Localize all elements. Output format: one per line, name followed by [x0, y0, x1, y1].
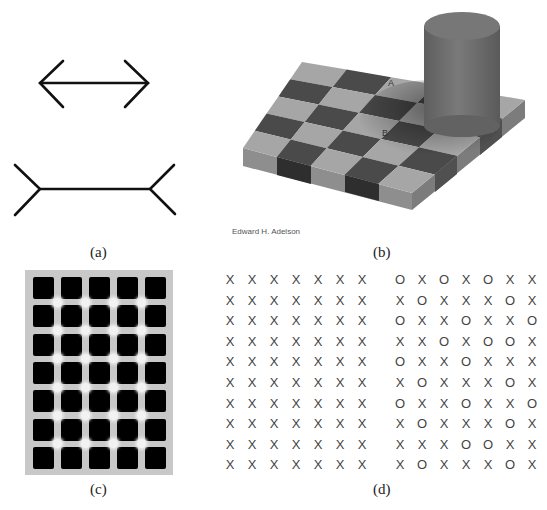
grid-square: [145, 277, 166, 299]
o-mark: O: [411, 455, 433, 476]
x-mark: X: [329, 435, 351, 456]
x-mark: X: [329, 332, 351, 353]
x-mark: X: [263, 270, 285, 291]
x-mark: X: [329, 414, 351, 435]
x-mark: X: [219, 373, 241, 394]
o-mark: O: [521, 311, 543, 332]
x-mark: X: [329, 373, 351, 394]
x-mark: X: [241, 311, 263, 332]
x-mark: X: [219, 270, 241, 291]
intersection-dot: [137, 298, 146, 307]
right-xo-grid: OXOXOXXXOXXXOXOXXOXXOXXOXOOXOXXOXXXXOXXX…: [389, 270, 543, 476]
x-mark: X: [219, 311, 241, 332]
grid-square: [89, 419, 110, 441]
x-mark: X: [241, 270, 263, 291]
x-mark: X: [263, 311, 285, 332]
grid-square: [145, 447, 166, 469]
x-mark: X: [499, 352, 521, 373]
x-mark: X: [521, 352, 543, 373]
x-mark: X: [307, 352, 329, 373]
x-mark: X: [329, 394, 351, 415]
x-mark: X: [329, 291, 351, 312]
x-mark: X: [499, 394, 521, 415]
label-b: B: [382, 128, 388, 138]
grid-square: [117, 305, 138, 327]
grid-square: [89, 305, 110, 327]
o-mark: O: [499, 455, 521, 476]
x-mark: X: [455, 455, 477, 476]
o-mark: O: [477, 435, 499, 456]
caption-c: (c): [90, 481, 107, 498]
x-mark: X: [521, 455, 543, 476]
intersection-dot: [53, 383, 62, 392]
label-a: A: [388, 78, 394, 88]
cylinder: [424, 12, 500, 137]
x-mark: X: [263, 394, 285, 415]
x-mark: X: [219, 435, 241, 456]
x-mark: X: [351, 414, 373, 435]
image-credit: Edward H. Adelson: [232, 227, 300, 236]
x-mark: X: [307, 332, 329, 353]
x-mark: X: [389, 435, 411, 456]
x-mark: X: [351, 455, 373, 476]
o-mark: O: [477, 332, 499, 353]
x-mark: X: [521, 291, 543, 312]
o-mark: O: [499, 414, 521, 435]
x-mark: X: [521, 414, 543, 435]
grid-square: [61, 390, 82, 412]
grid-square: [89, 447, 110, 469]
x-mark: X: [307, 394, 329, 415]
x-mark: X: [307, 373, 329, 394]
x-mark: X: [411, 270, 433, 291]
x-mark: X: [499, 311, 521, 332]
x-mark: X: [263, 291, 285, 312]
x-mark: X: [329, 352, 351, 373]
x-mark: X: [499, 270, 521, 291]
grid-square: [61, 334, 82, 356]
x-mark: X: [285, 373, 307, 394]
grid-square: [145, 362, 166, 384]
x-mark: X: [433, 455, 455, 476]
x-mark: X: [433, 435, 455, 456]
o-mark: O: [499, 373, 521, 394]
x-mark: X: [219, 394, 241, 415]
x-mark: X: [285, 435, 307, 456]
grid-square: [33, 277, 54, 299]
x-mark: X: [455, 291, 477, 312]
x-mark: X: [285, 311, 307, 332]
x-mark: X: [285, 414, 307, 435]
x-mark: X: [433, 291, 455, 312]
intersection-dot: [53, 298, 62, 307]
x-mark: X: [241, 455, 263, 476]
x-mark: X: [455, 270, 477, 291]
x-mark: X: [263, 373, 285, 394]
intersection-dot: [137, 383, 146, 392]
grid-square: [117, 447, 138, 469]
grid-square: [61, 419, 82, 441]
x-mark: X: [499, 435, 521, 456]
intersection-dot: [109, 298, 118, 307]
x-mark: X: [263, 455, 285, 476]
left-x-grid: XXXXXXXXXXXXXXXXXXXXXXXXXXXXXXXXXXXXXXXX…: [219, 270, 373, 476]
x-mark: X: [455, 373, 477, 394]
intersection-dot: [109, 383, 118, 392]
caption-b: (b): [373, 244, 391, 261]
x-mark: X: [411, 311, 433, 332]
x-mark: X: [329, 455, 351, 476]
intersection-dot: [137, 411, 146, 420]
x-mark: X: [307, 270, 329, 291]
x-mark: X: [263, 332, 285, 353]
x-mark: X: [389, 455, 411, 476]
o-mark: O: [455, 435, 477, 456]
x-mark: X: [241, 435, 263, 456]
x-mark: X: [433, 414, 455, 435]
o-mark: O: [521, 394, 543, 415]
x-mark: X: [411, 394, 433, 415]
x-mark: X: [219, 455, 241, 476]
o-mark: O: [499, 291, 521, 312]
o-mark: O: [389, 311, 411, 332]
x-mark: X: [241, 414, 263, 435]
x-mark: X: [521, 332, 543, 353]
x-mark: X: [219, 414, 241, 435]
o-mark: O: [455, 352, 477, 373]
